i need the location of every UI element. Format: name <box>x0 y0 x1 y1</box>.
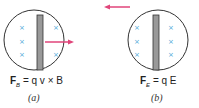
svg-text:×: × <box>168 51 174 59</box>
region-circle <box>4 10 64 70</box>
conducting-rod <box>37 15 43 70</box>
force-arrow-left-icon <box>104 5 130 10</box>
equation-b: FE = q E <box>140 75 177 88</box>
svg-text:×: × <box>19 51 25 59</box>
equation-a: FB = q v × B <box>10 75 63 88</box>
panel-b: ××× ××× <box>104 5 188 71</box>
svg-text:×: × <box>53 51 59 59</box>
svg-text:×: × <box>134 24 140 32</box>
svg-text:×: × <box>168 24 174 32</box>
conducting-rod <box>153 15 159 70</box>
caption-b: (b) <box>151 92 163 103</box>
caption-a: (a) <box>28 92 40 103</box>
svg-text:×: × <box>53 24 59 32</box>
svg-text:×: × <box>19 38 25 46</box>
svg-text:×: × <box>134 38 140 46</box>
svg-text:×: × <box>19 24 25 32</box>
panel-a: ××× ×× <box>4 10 74 70</box>
force-arrow-right-icon <box>45 40 74 45</box>
svg-text:×: × <box>168 38 174 46</box>
svg-text:×: × <box>134 51 140 59</box>
